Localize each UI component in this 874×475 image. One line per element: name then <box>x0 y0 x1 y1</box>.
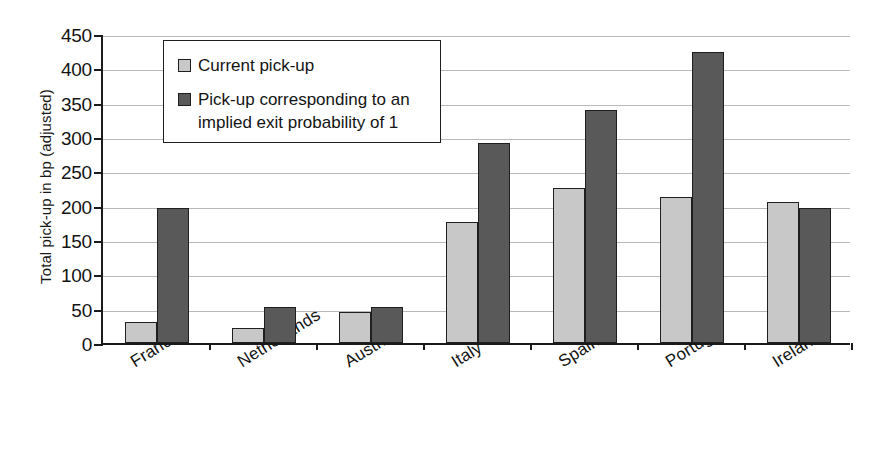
x-axis-category-labels: FranceNetherlandsAustriaItalySpainPortug… <box>101 349 850 469</box>
y-axis-tick-label: 150 <box>61 231 92 253</box>
bar <box>585 110 617 343</box>
y-axis-tick-label: 50 <box>71 300 92 322</box>
bar <box>478 143 510 343</box>
bar <box>799 208 831 343</box>
x-axis-tick-mark <box>851 343 853 350</box>
bar <box>264 307 296 343</box>
bar-chart: Total pick-up in bp (adjusted) 050100150… <box>0 0 874 475</box>
y-axis-tick-mark <box>94 344 103 346</box>
bar <box>339 312 371 343</box>
y-axis-tick-mark <box>94 241 103 243</box>
y-axis-tick-labels: 050100150200250300350400450 <box>38 36 92 345</box>
y-axis-tick-mark <box>94 172 103 174</box>
legend-label: Pick-up corresponding to an implied exit… <box>198 88 430 134</box>
bar <box>125 322 157 343</box>
y-axis-tick-mark <box>94 35 103 37</box>
y-axis-tick-mark <box>94 69 103 71</box>
legend-label: Current pick-up <box>198 54 314 77</box>
y-axis-tick-label: 350 <box>61 94 92 116</box>
bar <box>660 197 692 343</box>
y-axis-tick-label: 400 <box>61 59 92 81</box>
legend-item-implied-exit-probability: Pick-up corresponding to an implied exit… <box>178 88 430 134</box>
y-axis-tick-label: 200 <box>61 197 92 219</box>
y-axis-tick-label: 0 <box>82 334 92 356</box>
bar <box>446 222 478 343</box>
bar <box>692 52 724 343</box>
y-axis-tick-mark <box>94 207 103 209</box>
chart-legend: Current pick-up Pick-up corresponding to… <box>163 40 441 143</box>
bar <box>767 202 799 343</box>
y-axis-tick-label: 300 <box>61 128 92 150</box>
legend-swatch-icon-implied-exit-probability <box>178 93 191 106</box>
y-axis-tick-mark <box>94 138 103 140</box>
y-axis-tick-mark <box>94 275 103 277</box>
y-axis-tick-label: 250 <box>61 162 92 184</box>
legend-item-current-pick-up: Current pick-up <box>178 54 314 77</box>
y-axis-tick-mark <box>94 310 103 312</box>
legend-swatch-icon-current-pick-up <box>178 59 191 72</box>
bar <box>553 188 585 343</box>
bar <box>232 328 264 343</box>
bar <box>371 307 403 343</box>
bar <box>157 208 189 343</box>
y-axis-tick-label: 100 <box>61 265 92 287</box>
y-axis-tick-mark <box>94 104 103 106</box>
y-axis-tick-label: 450 <box>61 25 92 47</box>
